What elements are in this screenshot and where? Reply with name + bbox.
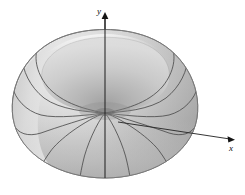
figure-container: y x xyxy=(0,0,245,195)
y-axis-label: y xyxy=(97,7,101,16)
surface-of-revolution xyxy=(0,20,245,190)
x-axis-label: x xyxy=(229,144,233,153)
x-axis-arrowhead xyxy=(228,136,236,142)
y-axis-arrowhead xyxy=(102,12,109,19)
surface-plot-svg xyxy=(0,0,245,195)
